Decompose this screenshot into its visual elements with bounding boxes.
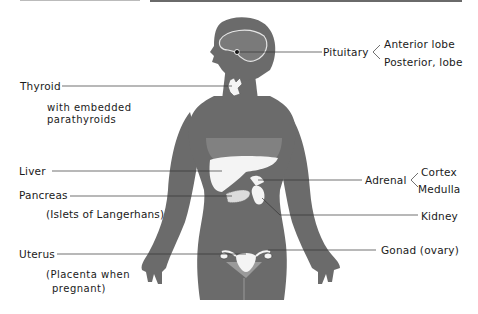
label-adrenal: Adrenal [365,174,407,186]
label-uterus-note-2: pregnant) [52,282,106,295]
label-pancreas: Pancreas [19,189,68,201]
label-cortex: Cortex [421,166,457,178]
label-kidney: Kidney [421,210,458,222]
label-thyroid: Thyroid [20,80,61,92]
bracket-adrenal [411,173,418,187]
label-thyroid-note-2: parathyroids [47,113,116,126]
label-gonad: Gonad (ovary) [381,244,459,256]
label-anterior-lobe: Anterior lobe [384,38,455,50]
label-medulla: Medulla [418,183,461,195]
label-pancreas-note: (Islets of Langerhans) [46,208,164,220]
label-liver: Liver [19,165,46,177]
label-posterior-lobe: Posterior, lobe [384,56,463,68]
label-pituitary: Pituitary [323,46,369,58]
ovary-right [264,253,272,259]
label-uterus: Uterus [19,248,55,260]
label-uterus-note-1: (Placenta when [46,268,130,281]
leader-kidney [262,198,418,215]
bracket-pituitary [373,45,380,59]
